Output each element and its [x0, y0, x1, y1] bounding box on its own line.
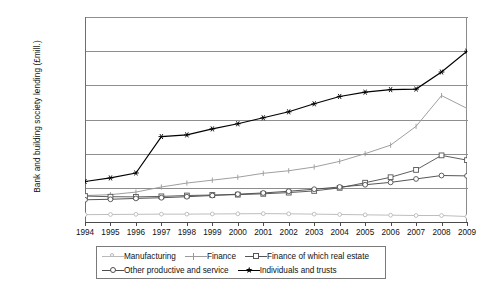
data-point-marker [465, 173, 467, 178]
legend-item-individuals-and-trusts[interactable]: Individuals and trusts [238, 265, 337, 276]
data-point-marker [414, 214, 418, 218]
series-manufacturing [85, 212, 467, 219]
data-point-marker [388, 87, 394, 92]
legend-row: Other productive and serviceIndividuals … [102, 263, 379, 277]
y-axis-title: Bank and building society lending (£mill… [33, 22, 42, 212]
legend-item-finance-of-which-real-estate[interactable]: Finance of which real estate [245, 251, 369, 262]
data-point-marker [134, 212, 138, 216]
legend-marker-icon [102, 251, 124, 262]
data-point-marker [286, 109, 292, 114]
data-point-marker [414, 177, 419, 182]
series-line [85, 96, 467, 196]
x-axis-tick-mark [161, 222, 162, 226]
legend-label: Manufacturing [124, 252, 176, 261]
series-finance [85, 93, 467, 198]
data-point-marker [312, 212, 316, 216]
series-line [85, 51, 467, 181]
x-axis-tick-mark [340, 222, 341, 226]
data-point-marker [287, 212, 291, 216]
x-axis-tick-mark [212, 222, 213, 226]
data-point-marker [261, 191, 266, 196]
data-point-marker [261, 212, 265, 216]
series-individuals-and-trusts [85, 49, 467, 184]
data-point-marker [465, 158, 467, 163]
x-axis-tick-mark [136, 222, 137, 226]
legend-item-manufacturing[interactable]: Manufacturing [102, 251, 176, 262]
x-axis-tick-mark [365, 222, 366, 226]
series-line [85, 214, 467, 217]
data-point-marker [159, 195, 164, 200]
legend-label: Individuals and trusts [260, 266, 337, 275]
x-axis-tick-mark [442, 222, 443, 226]
data-point-marker [109, 213, 113, 217]
x-axis-tick-mark [187, 222, 188, 226]
x-axis-tick-mark [467, 222, 468, 226]
data-point-marker [85, 179, 88, 184]
data-point-marker [184, 132, 190, 137]
x-axis-tick-mark [238, 222, 239, 226]
data-point-marker [235, 121, 241, 126]
data-point-marker [440, 214, 444, 218]
x-axis-tick-mark [391, 222, 392, 226]
series-other-productive-and-service [85, 173, 467, 202]
data-point-marker [312, 187, 317, 192]
data-point-marker [286, 189, 291, 194]
data-point-marker [184, 194, 189, 199]
data-point-marker [85, 197, 87, 202]
x-axis-tick-mark [263, 222, 264, 226]
data-point-marker [260, 115, 266, 120]
data-series-layer [85, 17, 467, 222]
legend-label: Finance [207, 252, 236, 261]
x-axis: 1994199519961997199819992000200120022003… [85, 222, 467, 246]
data-point-marker [362, 90, 368, 95]
legend-marker-icon [245, 251, 267, 262]
data-point-marker [338, 213, 342, 217]
data-point-marker [160, 212, 164, 216]
legend-marker-icon [238, 265, 260, 276]
data-point-marker [388, 180, 393, 185]
legend-item-other-productive-and-service[interactable]: Other productive and service [102, 265, 229, 276]
data-point-marker [465, 215, 467, 219]
data-point-marker [210, 193, 215, 198]
data-point-marker [159, 134, 165, 139]
data-point-marker [363, 182, 368, 187]
legend-item-finance[interactable]: Finance [185, 251, 236, 262]
data-point-marker [439, 153, 444, 158]
x-axis-tick-mark [416, 222, 417, 226]
data-point-marker [236, 212, 240, 216]
data-point-marker [389, 213, 393, 217]
x-axis-tick-mark [289, 222, 290, 226]
data-point-marker [209, 126, 215, 131]
data-point-marker [363, 213, 367, 217]
data-point-marker [185, 212, 189, 216]
data-point-marker [388, 175, 393, 180]
data-point-marker [235, 192, 240, 197]
data-point-marker [108, 197, 113, 202]
legend-label: Finance of which real estate [267, 252, 369, 261]
legend-marker-icon [185, 251, 207, 262]
data-point-marker [337, 185, 342, 190]
series-line [85, 176, 467, 200]
x-axis-tick-mark [110, 222, 111, 226]
data-point-marker [210, 212, 214, 216]
x-axis-tick-mark [85, 222, 86, 226]
legend-row: ManufacturingFinanceFinance of which rea… [102, 249, 379, 263]
chart-legend: ManufacturingFinanceFinance of which rea… [96, 246, 386, 279]
data-point-marker [108, 175, 114, 180]
data-point-marker [414, 167, 419, 172]
legend-label: Other productive and service [124, 266, 229, 275]
legend-marker-icon [102, 265, 124, 276]
x-axis-tick-label: 2009 [449, 228, 481, 237]
data-point-marker [134, 196, 139, 201]
data-point-marker [311, 101, 317, 106]
data-point-marker [439, 173, 444, 178]
data-point-marker [85, 213, 87, 217]
data-point-marker [133, 170, 139, 175]
x-axis-tick-mark [314, 222, 315, 226]
data-point-marker [337, 94, 343, 99]
